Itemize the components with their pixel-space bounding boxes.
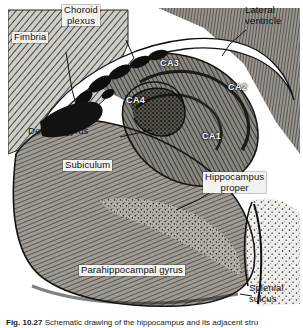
label-parahippocampal-gyrus: Parahippocampal gyrus <box>79 265 185 276</box>
region-label-ca3: CA3 <box>160 58 179 68</box>
region-label-ca1: CA1 <box>202 131 221 141</box>
label-lateral-ventricle: Lateral ventricle <box>243 5 283 26</box>
figure-container: Fimbria Choroid plexus Lateral ventricle… <box>0 0 303 328</box>
region-label-ca2: CA2 <box>228 82 247 92</box>
figure-caption-text: Schematic drawing of the hippocampus and… <box>42 318 258 327</box>
region-label-ca4: CA4 <box>126 95 145 105</box>
figure-number: Fig. 10.27 <box>6 318 42 327</box>
label-dentate-gyrus: Dentate gyrus <box>26 126 90 137</box>
label-splenial-sulcus: Splenial sulcus <box>247 283 286 304</box>
label-choroid-plexus: Choroid plexus <box>62 5 100 26</box>
label-subiculum: Subiculum <box>63 160 112 171</box>
label-hippocampus-proper: Hippocampus proper <box>203 172 266 193</box>
figure-caption: Fig. 10.27 Schematic drawing of the hipp… <box>6 318 302 328</box>
label-fimbria: Fimbria <box>12 32 48 43</box>
